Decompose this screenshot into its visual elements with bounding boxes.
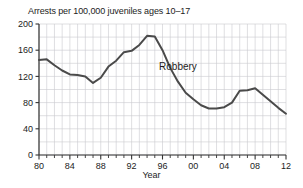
series-label-robbery: Robbery xyxy=(159,61,197,72)
y-tick-label: 80 xyxy=(23,98,33,108)
robbery-arrest-rate-line-chart: 04080120160200 808488929600040812 Robber… xyxy=(0,0,303,188)
y-tick-label: 120 xyxy=(18,72,33,82)
y-tick-labels: 04080120160200 xyxy=(18,19,33,160)
y-tick-label: 0 xyxy=(28,150,33,160)
series-annotations: Robbery xyxy=(159,61,197,72)
x-axis-title: Year xyxy=(0,170,303,180)
x-tick-marks xyxy=(39,155,286,160)
chart-page: Arrests per 100,000 juveniles ages 10–17… xyxy=(0,0,303,188)
y-tick-label: 40 xyxy=(23,124,33,134)
y-tick-label: 200 xyxy=(18,19,33,29)
y-tick-label: 160 xyxy=(18,45,33,55)
